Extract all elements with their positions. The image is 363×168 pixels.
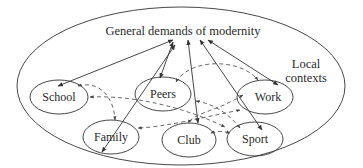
node-club: Club bbox=[162, 123, 216, 157]
local-contexts-label-line1: Local bbox=[292, 57, 321, 71]
local-contexts-label-line2: contexts bbox=[285, 71, 327, 85]
link-peers-school bbox=[90, 97, 225, 127]
node-sport: Sport bbox=[227, 122, 283, 156]
node-work-label: Work bbox=[255, 90, 281, 104]
local-contexts-diagram: General demands of modernity Local conte… bbox=[0, 0, 363, 168]
node-work: Work bbox=[237, 80, 293, 114]
node-family: Family bbox=[83, 120, 139, 154]
link-demands-school bbox=[58, 40, 173, 86]
node-school-label: School bbox=[42, 90, 76, 104]
link-demands-club bbox=[188, 40, 198, 123]
node-school: School bbox=[30, 80, 88, 114]
node-family-label: Family bbox=[94, 130, 128, 144]
node-club-label: Club bbox=[177, 133, 200, 147]
link-demands-work bbox=[208, 40, 278, 85]
general-demands-title: General demands of modernity bbox=[105, 24, 261, 38]
link-demands-peers bbox=[160, 42, 173, 78]
node-sport-label: Sport bbox=[242, 132, 269, 146]
node-peers: Peers bbox=[135, 77, 191, 111]
link-peers-work bbox=[176, 64, 258, 82]
link-school-family bbox=[78, 85, 115, 120]
node-peers-label: Peers bbox=[150, 87, 176, 101]
